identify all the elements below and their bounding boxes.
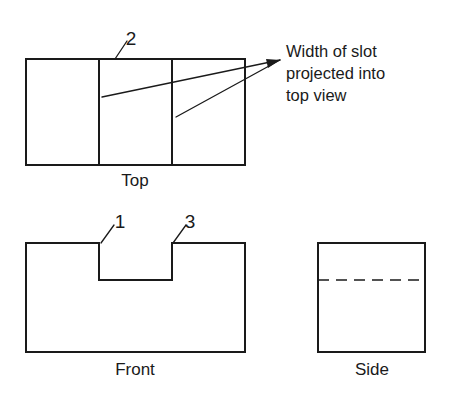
callout-1-label: 1 xyxy=(115,211,126,232)
annotation-leader-lower xyxy=(176,60,280,117)
callout-2-label: 2 xyxy=(126,28,137,49)
annotation-arrowhead xyxy=(266,59,280,68)
annotation-line-3: top view xyxy=(286,84,385,106)
top-view-label: Top xyxy=(121,171,148,190)
front-view-outline xyxy=(26,243,245,352)
callout-group: 2 1 3 xyxy=(101,28,195,243)
technical-drawing: Top Front Side 2 1 3 xyxy=(0,0,451,397)
front-view-label: Front xyxy=(115,360,155,379)
callout-1-leader xyxy=(101,225,114,243)
side-view-group: Side xyxy=(318,243,425,379)
side-view-label: Side xyxy=(355,360,389,379)
annotation-leader-upper xyxy=(102,60,280,97)
annotation-leader-group xyxy=(102,59,280,117)
annotation-line-1: Width of slot xyxy=(286,40,385,62)
side-view-outline xyxy=(318,243,425,352)
annotation-text-block: Width of slot projected into top view xyxy=(286,40,385,106)
top-view-group: Top xyxy=(26,59,245,190)
callout-3-label: 3 xyxy=(185,211,196,232)
top-view-outline xyxy=(26,59,245,165)
annotation-line-2: projected into xyxy=(286,62,385,84)
front-view-group: Front xyxy=(26,243,245,379)
